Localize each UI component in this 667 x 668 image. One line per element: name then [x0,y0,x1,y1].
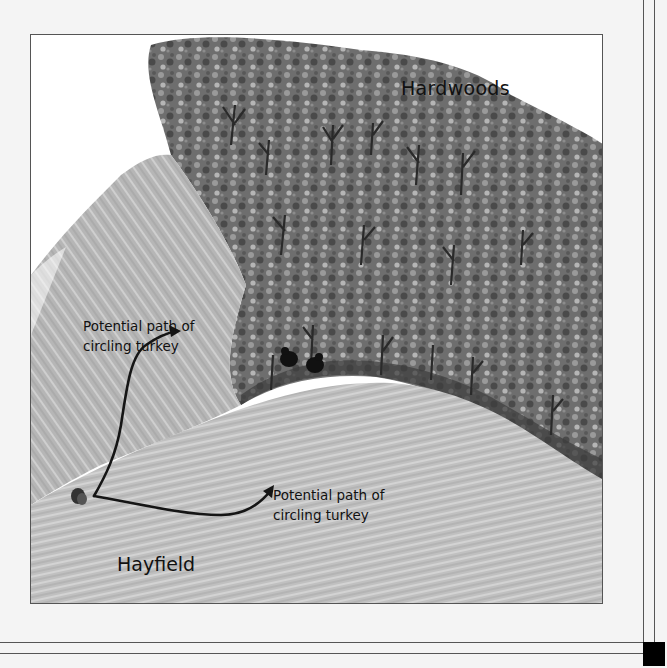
label-hardwoods: Hardwoods [401,77,510,99]
page-border-bottom-outer [0,653,656,654]
label-path-upper: Potential path of circling turkey [83,316,194,356]
page-corner-block [643,642,665,666]
illustration-frame: Hardwoods Potential path of circling tur… [30,34,603,604]
label-path-lower: Potential path of circling turkey [273,485,384,525]
page-border-right-inner [643,0,644,656]
page-border-bottom-inner [0,642,656,643]
page-border-right-outer [654,0,655,656]
label-hayfield: Hayfield [117,553,195,575]
